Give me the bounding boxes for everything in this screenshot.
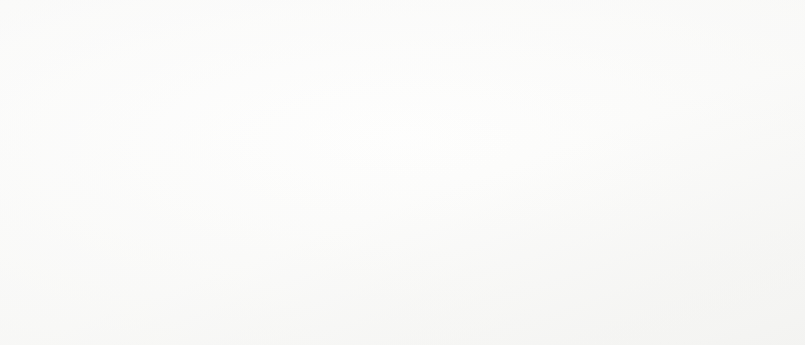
figure-caption: FIGURE 3.54 Chloroplasts These harvest t…: [33, 285, 433, 318]
granum-stack: [274, 168, 318, 223]
caption-body-part2: to an organic form.: [136, 302, 215, 312]
label-outer-membrane: Outer membrane: [540, 107, 605, 117]
granum-stack: [368, 114, 400, 144]
granum-stack: [320, 133, 368, 209]
chloroplast-cutaway-panel: [243, 106, 466, 242]
figure-page: Outer membrane Inner membrane Thylakoid …: [0, 0, 805, 345]
caption-figure-word: FIGURE: [33, 287, 71, 297]
label-stroma: Stroma: [385, 250, 413, 260]
caption-body-part1: These harvest the energy of sunlight to …: [33, 287, 433, 312]
label-thylakoid: Thylakoid: [540, 174, 577, 184]
granum-stack: [289, 119, 323, 156]
leader-outer-membrane: [447, 113, 520, 130]
caption-figure-title: Chloroplasts: [96, 286, 159, 297]
label-inner-membrane: Inner membrane: [540, 137, 603, 147]
caption-figure-number: 3.54: [74, 287, 93, 297]
